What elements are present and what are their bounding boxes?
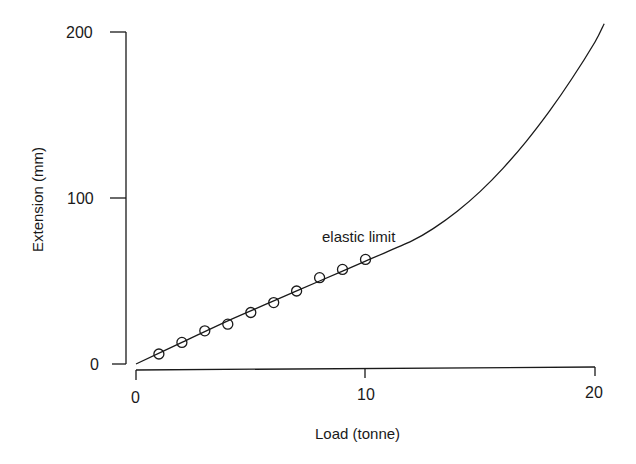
extension-curve <box>136 24 604 364</box>
data-points <box>154 254 371 359</box>
x-axis <box>136 367 595 380</box>
x-tick-10: 10 <box>357 387 375 403</box>
y-tick-0: 0 <box>90 357 99 373</box>
x-axis-title: Load (tonne) <box>315 426 400 441</box>
y-axis <box>110 32 126 364</box>
data-point-marker <box>154 349 164 359</box>
y-axis-title: Extension (mm) <box>30 140 45 260</box>
y-tick-200: 200 <box>66 25 93 41</box>
y-tick-100: 100 <box>67 191 94 207</box>
chart-canvas <box>0 0 636 464</box>
elastic-limit-label: elastic limit <box>322 229 395 244</box>
data-point-marker <box>200 326 210 336</box>
x-tick-0: 0 <box>131 390 140 406</box>
x-tick-20: 20 <box>585 385 603 401</box>
